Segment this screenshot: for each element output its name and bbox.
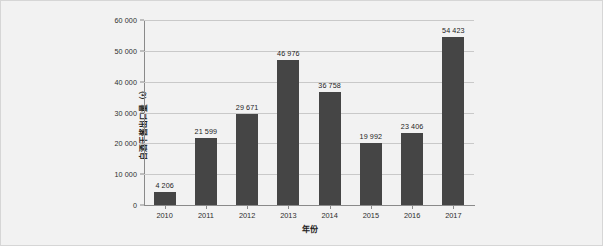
x-tick-label: 2014 (321, 211, 337, 220)
x-tick-label: 2011 (198, 211, 214, 220)
bar (401, 133, 423, 205)
bar (154, 192, 176, 205)
bar-value-label: 36 758 (318, 81, 341, 90)
x-tick-label: 2010 (156, 211, 172, 220)
bar-value-label: 29 671 (236, 103, 259, 112)
bar-value-label: 54 423 (442, 26, 465, 35)
x-tick-mark (288, 205, 289, 209)
bar-column: 19 992 (350, 20, 391, 205)
bar (442, 37, 464, 205)
x-axis-line (144, 205, 475, 206)
y-tick-label: 10 000 (114, 170, 144, 179)
y-tick-label: 0 (133, 201, 144, 210)
x-tick-mark (247, 205, 248, 209)
bar-value-label: 4 206 (155, 181, 174, 190)
x-tick-label: 2012 (239, 211, 255, 220)
bar (319, 92, 341, 205)
bar (236, 114, 258, 205)
bar (277, 60, 299, 205)
x-tick-label: 2016 (404, 211, 420, 220)
bar-column: 21 599 (185, 20, 226, 205)
x-tick-label: 2013 (280, 211, 296, 220)
bar-value-label: 21 599 (195, 127, 218, 136)
bar-column: 54 423 (433, 20, 474, 205)
x-tick-mark (206, 205, 207, 209)
y-tick-label: 50 000 (114, 46, 144, 55)
x-tick-mark (453, 205, 454, 209)
y-tick-label: 30 000 (114, 108, 144, 117)
plot-area: 010 00020 00030 00040 00050 00060 000 4 … (144, 20, 474, 205)
x-tick-label: 2017 (445, 211, 461, 220)
bar-column: 36 758 (309, 20, 350, 205)
x-tick-mark (371, 205, 372, 209)
bar-value-label: 23 406 (401, 122, 424, 131)
bar-value-label: 46 976 (277, 49, 300, 58)
x-axis-title: 年份 (144, 223, 475, 234)
bar (360, 143, 382, 205)
y-tick-label: 60 000 (114, 16, 144, 25)
bar-column: 4 206 (144, 20, 185, 205)
bar-value-label: 19 992 (360, 132, 383, 141)
x-tick-mark (165, 205, 166, 209)
bar (195, 138, 217, 205)
y-tick-label: 20 000 (114, 139, 144, 148)
bar-column: 23 406 (392, 20, 433, 205)
x-tick-mark (330, 205, 331, 209)
y-tick-label: 40 000 (114, 77, 144, 86)
bar-column: 46 976 (268, 20, 309, 205)
bar-column: 29 671 (227, 20, 268, 205)
x-tick-label: 2015 (363, 211, 379, 220)
chart-figure: 白酒干酱出口量（t） 010 00020 00030 00040 00050 0… (0, 0, 603, 246)
x-tick-mark (412, 205, 413, 209)
